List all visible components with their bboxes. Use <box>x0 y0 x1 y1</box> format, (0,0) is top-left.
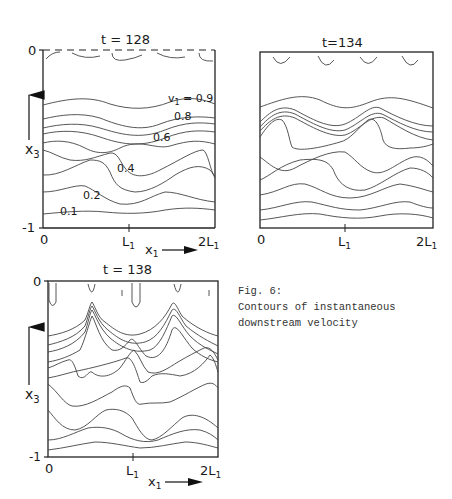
panel-t138: t = 138 0 -1 0 L1 2L1 x3 x1 <box>25 262 221 491</box>
x-tick-L1: L1 <box>338 234 351 251</box>
figure-canvas: t = 128 0 -1 0 L1 2L1 x3 x1 <box>0 0 452 499</box>
y-tick-0: 0 <box>28 43 36 58</box>
x-tick-0: 0 <box>257 232 265 247</box>
x1-arrow-icon <box>188 478 203 486</box>
contour-label-0.2: 0.2 <box>83 189 101 202</box>
x-tick-2L1: 2L1 <box>416 234 437 251</box>
contour-label-0.1: 0.1 <box>60 205 78 218</box>
y-axis-label: x3 <box>25 141 40 160</box>
figure-caption: Fig. 6: Contours of instantaneous downst… <box>238 283 396 331</box>
y-tick-minus1: -1 <box>22 220 35 235</box>
x-axis-label: x1 <box>145 242 158 259</box>
x-tick-2L1: 2L1 <box>198 234 219 251</box>
caption-line-1: Contours of instantaneous <box>238 301 396 313</box>
panel-t128: t = 128 0 -1 0 L1 2L1 x3 x1 <box>22 32 219 259</box>
y-tick-minus1: -1 <box>29 450 41 464</box>
x1-arrow-icon <box>184 246 198 254</box>
contour-label-0.9: v1 = 0.9 <box>168 92 213 107</box>
x-tick-0: 0 <box>40 232 48 247</box>
y-axis-label: x3 <box>25 386 40 405</box>
panel-frame <box>48 281 218 457</box>
contour-label-0.8: 0.8 <box>174 110 192 123</box>
panel-title: t = 128 <box>101 32 150 47</box>
x-axis-label: x1 <box>148 474 161 491</box>
x-tick-L1: L1 <box>126 463 139 480</box>
x-tick-L1: L1 <box>122 234 135 251</box>
panel-t134: t=134 0 L1 2L1 <box>257 35 437 251</box>
contour-label-0.6: 0.6 <box>153 131 171 144</box>
x-tick-0: 0 <box>45 461 53 476</box>
y-tick-0: 0 <box>33 274 41 289</box>
caption-line-2: downstream velocity <box>238 317 358 329</box>
panel-title: t=134 <box>322 35 363 50</box>
contour-label-0.4: 0.4 <box>117 162 135 175</box>
x-tick-2L1: 2L1 <box>200 463 221 480</box>
panel-title: t = 138 <box>103 262 152 277</box>
caption-label: Fig. 6: <box>238 285 282 297</box>
